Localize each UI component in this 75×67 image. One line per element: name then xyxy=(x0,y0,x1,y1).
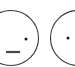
left-face-eye-dot xyxy=(25,38,28,41)
face-sketch-figure xyxy=(0,0,75,67)
image-canvas xyxy=(0,0,75,67)
right-face-eye-dot xyxy=(67,37,70,40)
